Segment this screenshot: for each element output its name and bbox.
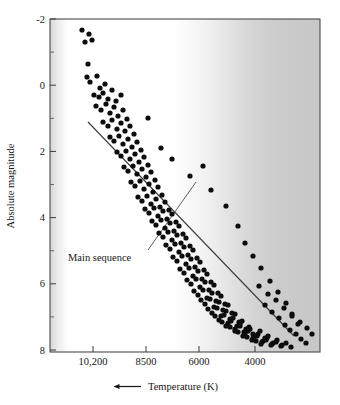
star-data-point [127,123,132,128]
star-data-point [303,340,308,345]
star-data-point [265,291,270,296]
star-data-point [283,340,288,345]
star-data-point [120,141,125,146]
star-data-point [107,110,112,115]
star-data-point [223,203,228,208]
star-data-point [102,81,107,86]
star-data-point [267,278,272,283]
star-data-point [144,193,149,198]
star-data-point [287,327,292,332]
star-data-point [136,159,141,164]
star-data-point [114,149,119,154]
star-data-point [256,283,261,288]
star-data-point [151,205,156,210]
star-data-point [293,331,298,336]
star-data-point [146,210,151,215]
star-data-point [269,309,274,314]
star-data-point [105,96,110,101]
star-data-point [268,342,273,347]
star-data-point [174,232,179,237]
star-data-point [155,184,160,189]
star-data-point [283,300,288,305]
chart-svg: -2 0 2 4 6 8 10,200 8500 6000 4000 Absol… [0,0,340,405]
star-data-point [174,258,179,263]
star-data-point [228,318,233,323]
star-data-point [170,254,175,259]
star-data-point [84,74,89,79]
star-data-point [208,187,213,192]
star-data-point [141,154,146,159]
star-data-point [159,192,164,197]
star-data-point [253,338,258,343]
star-data-point [235,329,240,334]
y-tick-label-5: 8 [40,345,45,356]
star-data-point [152,177,157,182]
star-data-point [120,107,125,112]
star-data-point [156,230,161,235]
star-data-point [197,259,202,264]
star-data-point [214,305,219,310]
star-data-point [209,290,214,295]
star-data-point [297,319,302,324]
star-data-point [139,166,144,171]
star-data-point [245,328,250,333]
star-data-point [139,198,144,203]
star-data-point [184,277,189,282]
star-data-point [258,265,263,270]
star-data-point [98,107,103,112]
y-tick-label-1: 0 [40,80,45,91]
star-data-point [282,322,287,327]
star-data-point [237,323,242,328]
star-data-point [146,181,151,186]
star-data-point [163,242,168,247]
star-data-point [244,334,249,339]
temperature-arrow-head-icon [114,384,120,389]
star-data-point [273,297,278,302]
star-data-point [129,144,134,149]
star-data-point [167,246,172,251]
star-data-point [288,344,293,349]
star-data-point [94,73,99,78]
star-data-point [89,37,94,42]
star-data-point [225,302,230,307]
star-data-point [211,282,216,287]
star-data-point [150,189,155,194]
star-data-point [124,116,129,121]
star-data-point [309,331,314,336]
star-data-point [190,247,195,252]
star-data-point [105,123,110,128]
star-data-point [123,148,128,153]
star-data-point [118,92,123,97]
star-data-point [134,171,139,176]
star-data-point [205,306,210,311]
star-data-point [167,220,172,225]
star-data-point [111,138,116,143]
star-data-point [107,134,112,139]
star-data-point [183,235,188,240]
star-data-point [130,163,135,168]
star-data-point [188,281,193,286]
star-data-point [109,117,114,122]
x-tick-label-0: 10,200 [79,356,108,367]
y-tick-label-3: 4 [40,212,46,223]
star-data-point [176,223,181,228]
y-tick-label-0: -2 [36,14,45,25]
star-data-point [114,126,119,131]
y-axis-title: Absolute magnitude [5,143,16,228]
star-data-point [162,199,167,204]
star-data-point [250,253,255,258]
star-data-point [188,256,193,261]
star-data-point [181,244,186,249]
y-tick-label-4: 6 [40,278,45,289]
star-data-point [258,341,263,346]
star-data-point [93,103,98,108]
star-data-point [97,85,102,90]
star-data-point [79,27,84,32]
star-data-point [281,305,286,310]
star-data-point [127,156,132,161]
star-data-point [227,324,232,329]
star-data-point [193,276,198,281]
star-data-point [160,234,165,239]
star-data-point [165,229,170,234]
hr-diagram-figure: -2 0 2 4 6 8 10,200 8500 6000 4000 Absol… [0,0,340,405]
